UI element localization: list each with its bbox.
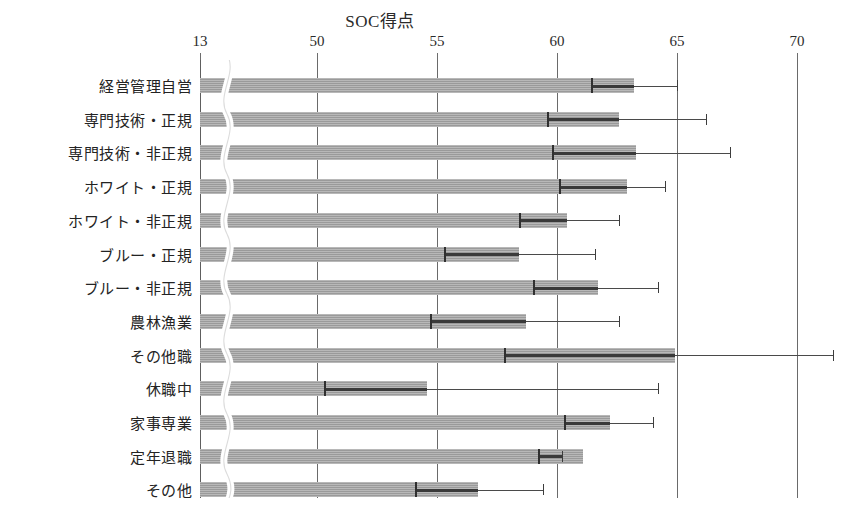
x-axis-tick-label: 13 [193, 33, 208, 50]
error-bar-cap-low [538, 449, 540, 464]
x-axis-tick-mark [557, 53, 558, 60]
y-axis-category-label: 休職中 [2, 378, 192, 399]
error-bar-cap-low [415, 482, 417, 497]
x-axis-tick-mark [200, 53, 201, 60]
y-axis-category-label: 定年退職 [2, 446, 192, 467]
error-bar-cap-low [559, 179, 561, 194]
error-bar-inner-segment [538, 455, 562, 458]
error-bar-cap-high [658, 282, 659, 293]
y-axis-category-label: 家事専業 [2, 412, 192, 433]
gridline [677, 60, 678, 498]
y-axis-category-label: ホワイト・正規 [2, 176, 192, 197]
y-axis-category-label: 専門技術・非正規 [2, 142, 192, 163]
error-bar-cap-high [595, 249, 596, 260]
error-bar-cap-low [324, 381, 326, 396]
x-axis-tick-mark [437, 53, 438, 60]
error-bar-cap-low [552, 145, 554, 160]
x-axis-tick-mark [317, 53, 318, 60]
error-bar-inner-segment [504, 354, 674, 357]
x-axis-tick-label: 50 [310, 33, 325, 50]
error-bar-cap-high [833, 350, 834, 361]
bar [200, 213, 567, 228]
error-bar-inner-segment [324, 388, 427, 391]
x-axis-tick-label: 70 [790, 33, 805, 50]
y-axis-category-label: ブルー・非正規 [2, 277, 192, 298]
error-bar-inner-segment [444, 253, 518, 256]
y-axis-category-label: ブルー・正規 [2, 244, 192, 265]
y-axis-category-label: その他 [2, 479, 192, 500]
error-bar-cap-high [543, 484, 544, 495]
error-bar-cap-low [519, 213, 521, 228]
error-bar-cap-high [619, 215, 620, 226]
error-bar-cap-high [706, 114, 707, 125]
error-bar-cap-low [533, 280, 535, 295]
y-axis-category-label: その他職 [2, 345, 192, 366]
y-axis-category-label: 経営管理自営 [2, 75, 192, 96]
gridline [797, 60, 798, 498]
bar [200, 78, 634, 93]
error-bar-inner-segment [552, 152, 636, 155]
error-bar-cap-high [562, 451, 563, 462]
error-bar-inner-segment [591, 85, 634, 88]
error-bar-inner-segment [415, 489, 477, 492]
error-bar-cap-high [619, 316, 620, 327]
error-bar-cap-low [591, 78, 593, 93]
bar [200, 415, 610, 430]
x-axis-tick-mark [797, 53, 798, 60]
chart-title-text: SOC得点 [345, 7, 415, 32]
x-axis-tick-label: 60 [550, 33, 565, 50]
y-axis-category-label: ホワイト・非正規 [2, 210, 192, 231]
y-axis-category-label: 農林漁業 [2, 311, 192, 332]
y-axis-label-group: 経営管理自営専門技術・正規専門技術・非正規ホワイト・正規ホワイト・非正規ブルー・… [0, 0, 192, 507]
x-axis-tick-label: 55 [430, 33, 445, 50]
error-bar-cap-high [653, 417, 654, 428]
soc-score-bar-chart: SOC得点 135055606570 経営管理自営専門技術・正規専門技術・非正規… [0, 0, 850, 507]
error-bar-cap-high [677, 80, 678, 91]
x-axis-tick-label: 65 [670, 33, 685, 50]
error-bar-cap-low [430, 314, 432, 329]
x-axis-tick-mark [677, 53, 678, 60]
error-bar-cap-high [665, 181, 666, 192]
error-bar-inner-segment [547, 118, 619, 121]
error-bar-inner-segment [564, 422, 610, 425]
error-bar-cap-high [730, 147, 731, 158]
error-bar-cap-low [504, 348, 506, 363]
error-bar-inner-segment [430, 320, 526, 323]
error-bar-inner-segment [559, 186, 626, 189]
error-bar-inner-segment [519, 219, 567, 222]
error-bar-cap-high [658, 383, 659, 394]
y-axis-category-label: 専門技術・正規 [2, 109, 192, 130]
error-bar-cap-low [444, 247, 446, 262]
plot-area [200, 60, 848, 498]
error-bar-cap-low [547, 112, 549, 127]
bar [200, 449, 583, 464]
error-bar-cap-low [564, 415, 566, 430]
error-bar-inner-segment [533, 287, 598, 290]
